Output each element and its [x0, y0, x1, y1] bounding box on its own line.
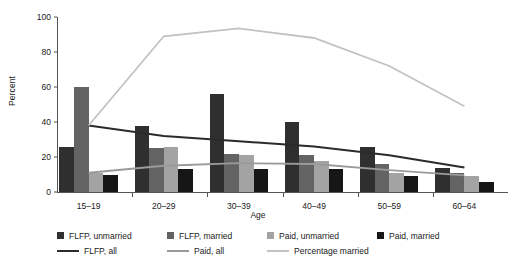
- chart-legend: FLFP, unmarriedFLFP, marriedPaid, unmarr…: [0, 228, 516, 258]
- y-tick-mark: [54, 192, 57, 193]
- x-tick-mark: [358, 193, 359, 197]
- legend-swatch-icon: [167, 232, 174, 239]
- legend-item: Paid, all: [167, 246, 267, 256]
- legend-item: Paid, unmarried: [267, 231, 377, 241]
- line-series: [89, 126, 465, 168]
- line-series: [89, 28, 465, 125]
- y-tick-mark: [54, 157, 57, 158]
- legend-label: FLFP, all: [84, 246, 117, 256]
- legend-line-icon: [167, 250, 189, 252]
- legend-line-icon: [57, 250, 79, 252]
- legend-label: FLFP, married: [179, 231, 232, 241]
- legend-label: Paid, all: [194, 246, 224, 256]
- x-axis-title: Age: [0, 210, 516, 220]
- y-tick-mark: [54, 52, 57, 53]
- legend-row-lines: FLFP, allPaid, allPercentage married: [0, 243, 516, 258]
- y-tick-label: 40: [17, 118, 51, 127]
- legend-line-icon: [267, 250, 289, 252]
- legend-item: FLFP, unmarried: [57, 231, 167, 241]
- y-axis-line: [57, 17, 58, 193]
- y-tick-mark: [54, 87, 57, 88]
- y-tick-mark: [54, 17, 57, 18]
- y-tick-label: 100: [17, 13, 51, 22]
- legend-row-bars: FLFP, unmarriedFLFP, marriedPaid, unmarr…: [0, 228, 516, 243]
- legend-label: FLFP, unmarried: [69, 231, 132, 241]
- legend-swatch-icon: [377, 232, 384, 239]
- x-tick-mark: [433, 193, 434, 197]
- x-tick-mark: [283, 193, 284, 197]
- x-tick-mark: [132, 193, 133, 197]
- line-series: [89, 163, 465, 175]
- legend-label: Paid, unmarried: [279, 231, 339, 241]
- legend-label: Paid, married: [389, 231, 440, 241]
- legend-swatch-icon: [57, 232, 64, 239]
- y-tick-label: 60: [17, 83, 51, 92]
- y-tick-label: 0: [17, 188, 51, 197]
- y-tick-label: 20: [17, 153, 51, 162]
- legend-swatch-icon: [267, 232, 274, 239]
- y-tick-label: 80: [17, 48, 51, 57]
- chart-container: Percent 02040608010015–1920–2930–3940–49…: [0, 0, 516, 274]
- legend-item: Percentage married: [267, 246, 369, 256]
- legend-label: Percentage married: [294, 246, 369, 256]
- legend-item: Paid, married: [377, 231, 440, 241]
- x-tick-mark: [207, 193, 208, 197]
- y-tick-mark: [54, 122, 57, 123]
- legend-item: FLFP, married: [167, 231, 267, 241]
- legend-item: FLFP, all: [57, 246, 167, 256]
